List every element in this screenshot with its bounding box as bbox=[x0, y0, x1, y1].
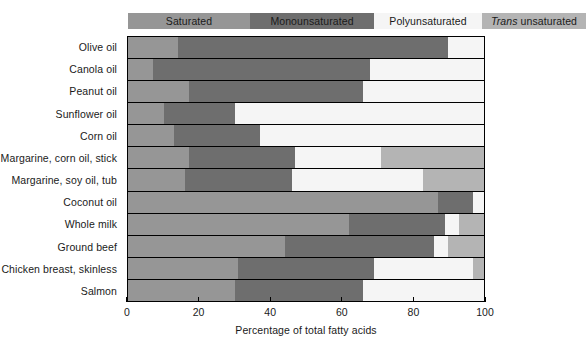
bar-segment bbox=[448, 37, 484, 58]
y-axis-label-9: Whole milk bbox=[0, 213, 122, 235]
bar-segment bbox=[128, 280, 235, 301]
bar-segment bbox=[423, 169, 484, 190]
bar-segment bbox=[238, 258, 373, 279]
x-tick-label-100: 100 bbox=[476, 306, 494, 318]
bar-segment bbox=[178, 37, 449, 58]
y-axis-label-2: Canola oil bbox=[0, 58, 122, 80]
bar-segment bbox=[370, 59, 484, 80]
bar-segment bbox=[235, 103, 484, 124]
bar-segment bbox=[448, 236, 484, 257]
bar-segment bbox=[185, 169, 292, 190]
legend-item-3: Polyunsaturated bbox=[374, 13, 482, 29]
bar-segment bbox=[374, 258, 474, 279]
y-axis-label-6: Margarine, corn oil, stick bbox=[0, 147, 122, 169]
bar-segment bbox=[153, 59, 370, 80]
legend-item-2: Monounsaturated bbox=[250, 13, 374, 29]
bar-segment bbox=[285, 236, 435, 257]
bar-row bbox=[128, 81, 484, 103]
x-tick bbox=[341, 297, 342, 302]
bar-segment bbox=[128, 37, 178, 58]
y-axis-label-10: Ground beef bbox=[0, 236, 122, 258]
bar-segment bbox=[128, 214, 349, 235]
bar-segment bbox=[349, 214, 445, 235]
x-axis-title: Percentage of total fatty acids bbox=[127, 324, 485, 336]
plot-area bbox=[127, 36, 485, 302]
x-tick-label-0: 0 bbox=[124, 306, 130, 318]
bar-segment bbox=[189, 147, 296, 168]
bar-segment bbox=[363, 280, 484, 301]
x-tick bbox=[484, 297, 485, 302]
bar-segment bbox=[473, 192, 484, 213]
bar-segment bbox=[459, 214, 484, 235]
bar-segment bbox=[128, 59, 153, 80]
bar-segment bbox=[235, 280, 363, 301]
bar-row bbox=[128, 147, 484, 169]
bar-row bbox=[128, 125, 484, 147]
x-tick bbox=[198, 297, 199, 302]
bar-segment bbox=[292, 169, 424, 190]
bar-segment bbox=[438, 192, 474, 213]
bar-segment bbox=[473, 258, 484, 279]
bar-row bbox=[128, 214, 484, 236]
y-axis-label-1: Olive oil bbox=[0, 36, 122, 58]
legend-item-4: Trans unsaturated bbox=[482, 13, 586, 29]
x-tick-label-20: 20 bbox=[193, 306, 205, 318]
bar-segment bbox=[445, 214, 459, 235]
x-tick bbox=[126, 297, 127, 302]
bar-segment bbox=[164, 103, 235, 124]
bar-segment bbox=[260, 125, 484, 146]
bar-segment bbox=[128, 125, 174, 146]
legend-item-1: Saturated bbox=[128, 13, 250, 29]
legend-item-label: Trans unsaturated bbox=[491, 16, 577, 27]
legend-item-label: Monounsaturated bbox=[270, 16, 353, 27]
bar-segment bbox=[128, 147, 189, 168]
y-axis-label-11: Chicken breast, skinless bbox=[0, 258, 122, 280]
y-axis-label-7: Margarine, soy oil, tub bbox=[0, 169, 122, 191]
bar-row bbox=[128, 103, 484, 125]
y-axis-label-5: Corn oil bbox=[0, 125, 122, 147]
bar-segment bbox=[128, 81, 189, 102]
bar-row bbox=[128, 169, 484, 191]
bar-row bbox=[128, 192, 484, 214]
bar-segment bbox=[128, 258, 238, 279]
bar-row bbox=[128, 258, 484, 280]
legend-item-label: Polyunsaturated bbox=[389, 16, 466, 27]
bar-segment bbox=[174, 125, 259, 146]
x-tick-label-40: 40 bbox=[264, 306, 276, 318]
x-axis-tick-labels: 020406080100 bbox=[127, 306, 485, 320]
bar-segment bbox=[128, 236, 285, 257]
bar-segment bbox=[128, 103, 164, 124]
y-axis-label-8: Coconut oil bbox=[0, 191, 122, 213]
x-tick bbox=[270, 297, 271, 302]
legend-item-label: Saturated bbox=[166, 16, 212, 27]
x-tick-label-60: 60 bbox=[336, 306, 348, 318]
y-axis-label-3: Peanut oil bbox=[0, 80, 122, 102]
bar-row bbox=[128, 59, 484, 81]
bar-segment bbox=[381, 147, 484, 168]
bar-segment bbox=[295, 147, 380, 168]
bar-segment bbox=[189, 81, 363, 102]
x-tick bbox=[413, 297, 414, 302]
y-axis-category-labels: Olive oilCanola oilPeanut oilSunflower o… bbox=[0, 36, 122, 302]
bar-stack-container bbox=[128, 37, 484, 301]
bar-row bbox=[128, 236, 484, 258]
chart-legend: SaturatedMonounsaturatedPolyunsaturatedT… bbox=[128, 13, 586, 29]
y-axis-label-4: Sunflower oil bbox=[0, 103, 122, 125]
x-tick-label-80: 80 bbox=[408, 306, 420, 318]
y-axis-label-12: Salmon bbox=[0, 280, 122, 302]
bar-segment bbox=[128, 192, 438, 213]
bar-row bbox=[128, 37, 484, 59]
bar-row bbox=[128, 280, 484, 301]
bar-segment bbox=[128, 169, 185, 190]
bar-segment bbox=[434, 236, 448, 257]
bar-segment bbox=[363, 81, 484, 102]
